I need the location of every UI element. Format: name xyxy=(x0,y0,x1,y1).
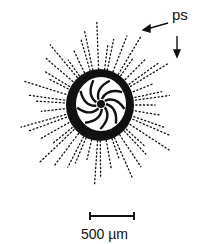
ps-label: ps xyxy=(172,6,188,23)
scale-bar-label: 500 µm xyxy=(0,226,209,242)
scale-bar xyxy=(90,212,134,220)
test-shell xyxy=(66,69,134,141)
organism-drawing xyxy=(0,0,209,244)
organism-figure: ps 500 µm xyxy=(0,0,209,244)
ps-arrows xyxy=(143,23,180,57)
